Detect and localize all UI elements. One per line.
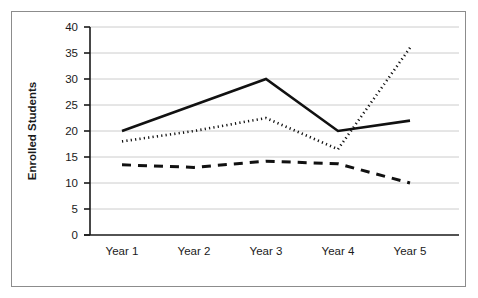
x-tick-label-year-1: Year 1 — [106, 245, 139, 257]
y-tick-label-5: 5 — [72, 203, 78, 215]
y-tick-marks — [84, 27, 90, 235]
x-tick-label-year-2: Year 2 — [178, 245, 211, 257]
y-tick-label-10: 10 — [65, 177, 78, 189]
y-tick-label-0: 0 — [72, 229, 78, 241]
y-tick-label-15: 15 — [65, 151, 78, 163]
x-tick-labels: Year 1 Year 2 Year 3 Year 4 Year 5 — [106, 245, 427, 257]
y-tick-label-30: 30 — [65, 73, 78, 85]
y-axis-title: Enrolled Students — [26, 82, 38, 180]
line-chart-canvas: 40 35 30 25 20 15 10 5 0 Enrolled Studen… — [12, 12, 467, 288]
data-series-group — [122, 48, 410, 183]
gridlines — [90, 27, 459, 209]
y-tick-label-20: 20 — [65, 125, 78, 137]
y-tick-label-40: 40 — [65, 21, 78, 33]
y-tick-label-35: 35 — [65, 47, 78, 59]
chart-frame: 40 35 30 25 20 15 10 5 0 Enrolled Studen… — [11, 11, 466, 287]
x-tick-label-year-4: Year 4 — [322, 245, 355, 257]
chart-figure: 40 35 30 25 20 15 10 5 0 Enrolled Studen… — [0, 0, 478, 298]
series-line-dotted — [122, 48, 410, 149]
y-tick-labels: 40 35 30 25 20 15 10 5 0 — [65, 21, 78, 241]
series-line-dashed — [122, 161, 410, 183]
y-tick-label-25: 25 — [65, 99, 78, 111]
x-tick-label-year-5: Year 5 — [394, 245, 427, 257]
x-tick-label-year-3: Year 3 — [250, 245, 283, 257]
